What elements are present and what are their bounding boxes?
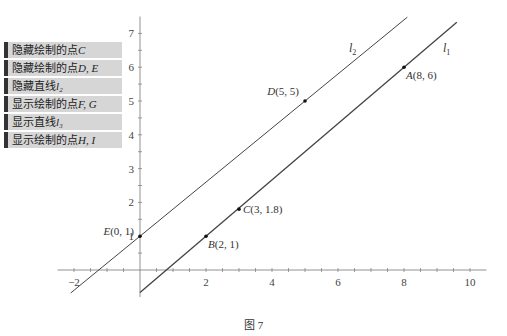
menu-item-label: 隐藏绘制的点	[12, 62, 78, 74]
point-label-D: D(5, 5)	[266, 85, 299, 98]
point-label-B: B(2, 1)	[208, 238, 239, 251]
menu-item-var: H, I	[78, 134, 95, 146]
x-tick-label: 10	[465, 276, 477, 288]
point-name: D	[266, 85, 275, 97]
menu-item-show-points-f-g[interactable]: 显示绘制的点F, G	[4, 96, 122, 112]
point-label-C: C(3, 1.8)	[243, 203, 283, 216]
point-coords: (0, 1)	[110, 225, 134, 238]
x-tick-label: 4	[269, 276, 275, 288]
menu-item-hide-point-c[interactable]: 隐藏绘制的点C	[4, 42, 122, 58]
y-tick-label: 7	[129, 27, 135, 39]
menu-item-label: 显示绘制的点	[12, 134, 78, 146]
menu-item-var: C	[78, 44, 85, 56]
menu-item-show-line-l3[interactable]: 显示直线l₃	[4, 114, 122, 130]
line-label-subscript: 1	[446, 48, 450, 57]
point-label-A: A(8, 6)	[405, 69, 437, 82]
point-E	[138, 234, 142, 238]
menu-item-hide-points-d-e[interactable]: 隐藏绘制的点D, E	[4, 60, 122, 76]
x-tick-label: 2	[203, 276, 209, 288]
menu-item-label: 显示直线	[12, 116, 56, 128]
y-tick-label: 4	[129, 129, 135, 141]
x-tick-label: −2	[68, 276, 80, 288]
point-coords: (2, 1)	[215, 238, 239, 251]
line-label-l1: l1	[443, 41, 450, 57]
point-C	[237, 207, 241, 211]
point-D	[303, 99, 307, 103]
menu-item-label: 显示绘制的点	[12, 98, 78, 110]
menu-item-label: 隐藏绘制的点	[12, 44, 78, 56]
point-coords: (8, 6)	[413, 69, 437, 82]
menu-item-label: 隐藏直线	[12, 80, 56, 92]
figure-caption: 图 7	[0, 316, 507, 332]
y-tick-label: 3	[129, 163, 135, 175]
menu-item-show-points-h-i[interactable]: 显示绘制的点H, I	[4, 132, 122, 148]
y-tick-label: 6	[129, 61, 135, 73]
menu-item-var: D, E	[78, 62, 98, 74]
menu-item-var: l₃	[56, 116, 63, 128]
action-menu: 隐藏绘制的点C 隐藏绘制的点D, E 隐藏直线l₂ 显示绘制的点F, G 显示直…	[4, 42, 122, 150]
line-label-subscript: 2	[352, 48, 356, 57]
line-label-l2: l2	[349, 41, 356, 57]
line-l1	[140, 22, 457, 292]
x-tick-label: 6	[335, 276, 341, 288]
point-coords: (5, 5)	[275, 85, 299, 98]
y-tick-label: 5	[129, 95, 135, 107]
y-tick-label: 2	[129, 196, 135, 208]
point-coords: (3, 1.8)	[250, 203, 282, 216]
menu-item-var: F, G	[78, 98, 97, 110]
point-label-E: E(0, 1)	[102, 225, 134, 238]
menu-item-var: l₂	[56, 80, 63, 92]
x-tick-label: 8	[401, 276, 407, 288]
menu-item-hide-line-l2[interactable]: 隐藏直线l₂	[4, 78, 122, 94]
